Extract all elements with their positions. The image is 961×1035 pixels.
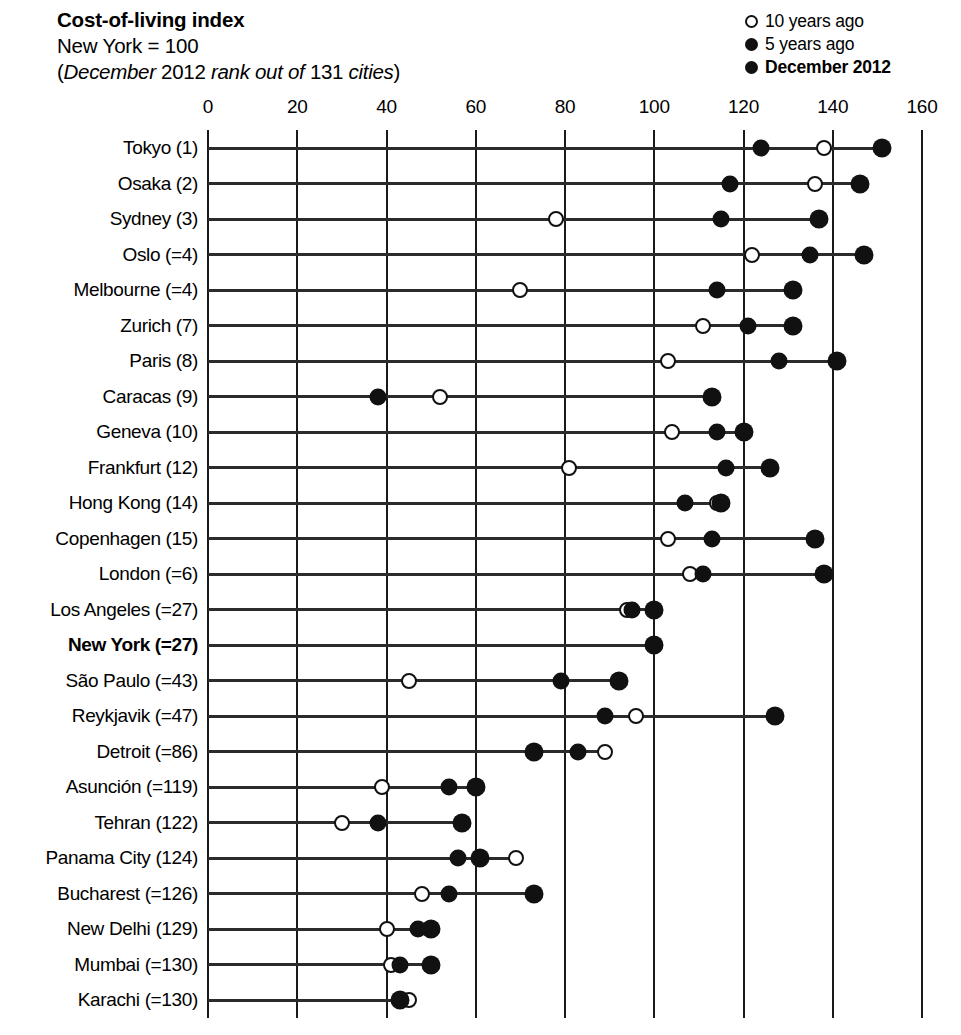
point-december-2012 [422, 955, 441, 974]
point-december-2012 [645, 600, 664, 619]
point-december-2012 [828, 352, 847, 371]
row-label-24: Karachi (=130) [0, 989, 198, 1011]
chart-plot-area: Tokyo (1)Osaka (2)Sydney (3)Oslo (=4)Mel… [0, 0, 961, 1035]
point-10-years-ago [695, 318, 711, 334]
point-10-years-ago [432, 389, 448, 405]
point-december-2012 [783, 316, 802, 335]
point-10-years-ago [816, 140, 832, 156]
point-10-years-ago [512, 282, 528, 298]
point-5-years-ago [802, 246, 819, 263]
point-5-years-ago [717, 459, 734, 476]
row-connector-line [208, 644, 654, 647]
row-label-14: New York (=27) [0, 634, 198, 656]
point-5-years-ago [369, 814, 386, 831]
point-5-years-ago [695, 566, 712, 583]
point-10-years-ago [660, 531, 676, 547]
row-connector-line [208, 750, 605, 753]
row-connector-line [208, 253, 864, 256]
point-december-2012 [524, 742, 543, 761]
row-label-0: Tokyo (1) [0, 137, 198, 159]
point-5-years-ago [708, 424, 725, 441]
point-5-years-ago [677, 495, 694, 512]
row-label-16: Reykjavik (=47) [0, 705, 198, 727]
point-10-years-ago [374, 779, 390, 795]
point-10-years-ago [597, 744, 613, 760]
point-december-2012 [712, 494, 731, 513]
point-10-years-ago [414, 886, 430, 902]
point-december-2012 [850, 174, 869, 193]
point-10-years-ago [744, 247, 760, 263]
point-5-years-ago [391, 956, 408, 973]
row-connector-line [208, 147, 882, 150]
point-10-years-ago [379, 921, 395, 937]
point-5-years-ago [449, 850, 466, 867]
row-label-17: Detroit (=86) [0, 741, 198, 763]
point-december-2012 [609, 671, 628, 690]
point-5-years-ago [552, 672, 569, 689]
point-december-2012 [854, 245, 873, 264]
point-5-years-ago [623, 601, 640, 618]
row-connector-line [208, 360, 837, 363]
row-label-12: London (=6) [0, 563, 198, 585]
row-connector-line [208, 537, 815, 540]
row-label-21: Bucharest (=126) [0, 883, 198, 905]
point-5-years-ago [369, 388, 386, 405]
row-label-2: Sydney (3) [0, 208, 198, 230]
point-5-years-ago [704, 530, 721, 547]
row-connector-line [208, 182, 860, 185]
row-connector-line [208, 289, 793, 292]
row-label-5: Zurich (7) [0, 315, 198, 337]
row-connector-line [208, 928, 431, 931]
point-10-years-ago [334, 815, 350, 831]
gridline-160 [921, 130, 923, 1018]
point-december-2012 [805, 529, 824, 548]
point-december-2012 [390, 991, 409, 1010]
point-10-years-ago [508, 850, 524, 866]
row-label-22: New Delhi (129) [0, 918, 198, 940]
row-label-18: Asunción (=119) [0, 776, 198, 798]
point-december-2012 [734, 423, 753, 442]
row-label-23: Mumbai (=130) [0, 954, 198, 976]
point-10-years-ago [628, 708, 644, 724]
row-label-19: Tehran (122) [0, 812, 198, 834]
row-label-20: Panama City (124) [0, 847, 198, 869]
row-connector-line [208, 395, 712, 398]
row-label-8: Geneva (10) [0, 421, 198, 443]
row-label-13: Los Angeles (=27) [0, 599, 198, 621]
point-10-years-ago [561, 460, 577, 476]
point-5-years-ago [597, 708, 614, 725]
row-connector-line [208, 999, 409, 1002]
point-10-years-ago [807, 176, 823, 192]
point-5-years-ago [713, 211, 730, 228]
point-december-2012 [453, 813, 472, 832]
point-10-years-ago [548, 211, 564, 227]
point-december-2012 [783, 281, 802, 300]
point-december-2012 [872, 139, 891, 158]
point-december-2012 [703, 387, 722, 406]
point-5-years-ago [570, 743, 587, 760]
point-10-years-ago [401, 673, 417, 689]
row-label-10: Hong Kong (14) [0, 492, 198, 514]
point-december-2012 [645, 636, 664, 655]
row-label-9: Frankfurt (12) [0, 457, 198, 479]
row-connector-line [208, 466, 770, 469]
row-label-11: Copenhagen (15) [0, 528, 198, 550]
point-december-2012 [524, 884, 543, 903]
point-5-years-ago [753, 140, 770, 157]
point-5-years-ago [440, 885, 457, 902]
row-label-3: Oslo (=4) [0, 244, 198, 266]
point-december-2012 [810, 210, 829, 229]
row-connector-line [208, 892, 534, 895]
point-5-years-ago [440, 779, 457, 796]
row-label-7: Caracas (9) [0, 386, 198, 408]
point-5-years-ago [739, 317, 756, 334]
point-5-years-ago [722, 175, 739, 192]
row-connector-line [208, 573, 824, 576]
row-connector-line [208, 608, 654, 611]
row-connector-line [208, 502, 721, 505]
point-5-years-ago [708, 282, 725, 299]
row-label-1: Osaka (2) [0, 173, 198, 195]
row-connector-line [208, 786, 476, 789]
point-december-2012 [422, 920, 441, 939]
point-december-2012 [814, 565, 833, 584]
